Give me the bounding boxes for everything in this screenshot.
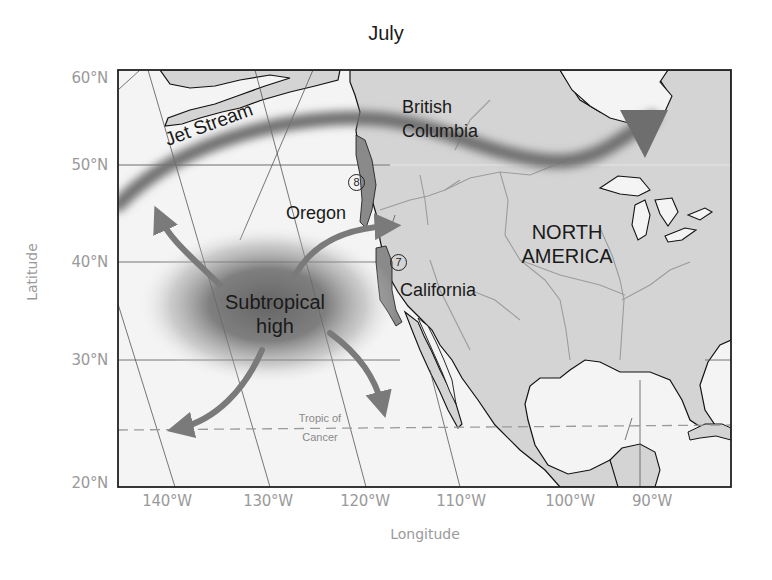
british-columbia-label-line1: British bbox=[402, 97, 452, 118]
subtropical-high-label-line1: Subtropical bbox=[210, 291, 340, 314]
tropic-label-line1: Tropic of bbox=[280, 411, 360, 426]
tropic-label-line2: Cancer bbox=[280, 430, 360, 445]
subtropical-high-label-line2: high bbox=[210, 315, 340, 338]
map-canvas bbox=[0, 0, 772, 580]
british-columbia-label-line2: Columbia bbox=[402, 121, 478, 142]
north-america-label-line1: NORTH bbox=[512, 221, 622, 244]
california-label: California bbox=[400, 280, 476, 301]
marker-7: 7 bbox=[390, 254, 407, 271]
north-america-label-line2: AMERICA bbox=[512, 245, 622, 268]
marker-8: 8 bbox=[348, 174, 365, 191]
oregon-label: Oregon bbox=[286, 203, 346, 224]
